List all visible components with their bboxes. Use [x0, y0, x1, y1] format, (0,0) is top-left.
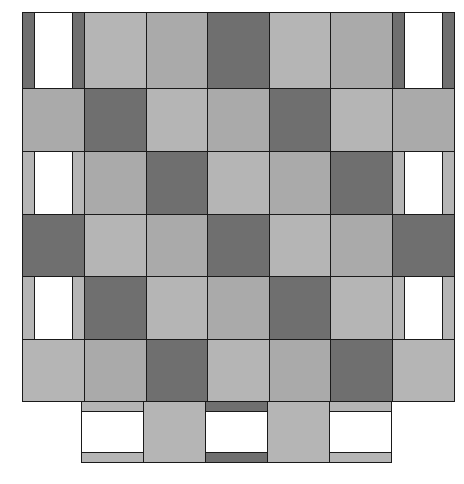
dark-tile — [146, 151, 208, 215]
light-tile — [269, 12, 331, 89]
window-tile — [205, 411, 268, 453]
light-tile — [330, 88, 393, 152]
light-tile — [146, 88, 208, 152]
tile-pattern-board — [0, 0, 464, 484]
window-tile — [81, 411, 144, 453]
dark-tile — [84, 276, 147, 340]
window-bar — [205, 452, 268, 463]
window-tile — [34, 12, 73, 89]
light-tile — [84, 12, 147, 89]
light-tile — [207, 151, 270, 215]
light-tile — [269, 214, 331, 277]
dark-tile — [392, 214, 455, 277]
light-tile — [330, 12, 393, 89]
light-tile — [207, 88, 270, 152]
dark-tile — [146, 339, 208, 402]
light-tile — [269, 339, 331, 402]
window-tile — [34, 151, 73, 215]
window-bar — [329, 452, 392, 463]
window-side-strip — [442, 151, 455, 215]
light-tile — [330, 276, 393, 340]
window-tile — [329, 411, 392, 453]
light-tile — [207, 339, 270, 402]
window-tile — [404, 276, 443, 340]
light-tile — [146, 214, 208, 277]
dark-tile — [84, 88, 147, 152]
dark-tile — [207, 12, 270, 89]
window-bar — [81, 452, 144, 463]
light-tile — [267, 401, 330, 463]
dark-tile — [269, 88, 331, 152]
dark-tile — [330, 151, 393, 215]
light-tile — [143, 401, 206, 463]
light-tile — [84, 339, 147, 402]
dark-tile — [269, 276, 331, 340]
window-side-strip — [442, 276, 455, 340]
light-tile — [392, 339, 455, 402]
light-tile — [84, 214, 147, 277]
light-tile — [207, 276, 270, 340]
dark-tile — [330, 339, 393, 402]
light-tile — [269, 151, 331, 215]
light-tile — [392, 88, 455, 152]
light-tile — [84, 151, 147, 215]
window-tile — [404, 12, 443, 89]
light-tile — [146, 12, 208, 89]
window-tile — [34, 276, 73, 340]
light-tile — [22, 88, 85, 152]
dark-tile — [22, 214, 85, 277]
window-tile — [404, 151, 443, 215]
dark-tile — [207, 214, 270, 277]
light-tile — [146, 276, 208, 340]
light-tile — [22, 339, 85, 402]
window-side-strip — [442, 12, 455, 89]
light-tile — [330, 214, 393, 277]
